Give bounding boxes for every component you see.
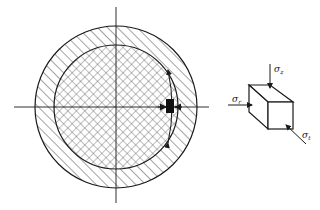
- label-sigma-z: σz: [274, 64, 284, 75]
- cube-front-face: [268, 102, 293, 129]
- stress-element-marker: [166, 99, 174, 113]
- label-sigma-r: σr: [232, 94, 242, 105]
- label-sigma-t: σt: [302, 130, 311, 141]
- stress-cube: [249, 85, 293, 129]
- stress-diagram: σz σr σt: [0, 0, 320, 210]
- cylinder-cross-section: [14, 7, 209, 203]
